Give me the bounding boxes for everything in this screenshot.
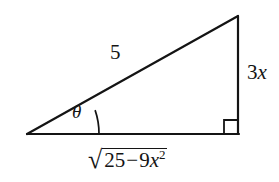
hypotenuse-line	[27, 16, 238, 134]
opposite-coefficient: 3	[247, 60, 258, 84]
radicand: 25−9x2	[102, 148, 167, 171]
right-triangle-figure: 5 3x θ √25−9x2	[0, 0, 279, 182]
radicand-operator: −	[125, 148, 139, 172]
radical-sign-icon: √	[88, 149, 102, 170]
angle-arc	[95, 110, 99, 134]
right-angle-marker	[224, 120, 238, 134]
opposite-variable: x	[258, 60, 267, 84]
radicand-exponent: 2	[159, 147, 166, 162]
hypotenuse-label: 5	[110, 42, 121, 63]
opposite-side-label: 3x	[247, 62, 267, 83]
radicand-variable: x	[150, 148, 159, 172]
radicand-second-coefficient: 9	[139, 148, 150, 172]
angle-label-theta: θ	[72, 102, 81, 121]
radicand-first-term: 25	[104, 148, 125, 172]
adjacent-side-label: √25−9x2	[88, 147, 167, 170]
